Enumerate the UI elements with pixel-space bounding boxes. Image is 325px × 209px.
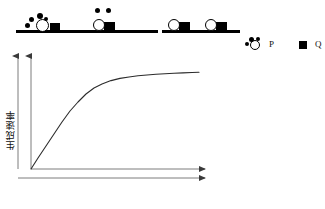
panel-2-bound-complex-releasing-product xyxy=(80,0,158,40)
panel-1-substrate-approaching xyxy=(16,0,88,40)
p-satellite-dot-icon xyxy=(29,17,34,22)
p-core-icon xyxy=(168,19,180,31)
q-square-icon xyxy=(179,22,190,33)
p-core-icon xyxy=(205,19,217,31)
chart-svg xyxy=(0,44,232,209)
p-core-icon xyxy=(36,19,49,32)
p-satellite-dot-icon xyxy=(37,13,43,19)
q-square-icon xyxy=(50,23,60,33)
p-core-icon xyxy=(93,19,105,31)
rate-chart: 生成速率 0 P Q xyxy=(0,44,232,209)
legend: P Q xyxy=(245,33,325,57)
legend-label-p: P xyxy=(269,37,274,51)
mechanism-panels xyxy=(0,0,240,40)
p-satellite-dot-icon xyxy=(44,17,48,21)
p-cluster-icon xyxy=(245,37,263,53)
rate-curve xyxy=(31,72,199,169)
q-square-icon xyxy=(104,22,115,33)
black-square-icon xyxy=(297,37,315,53)
legend-label-q: Q xyxy=(315,37,322,51)
q-square-icon xyxy=(216,22,227,33)
y-axis-label: 生成速率 xyxy=(6,110,20,150)
figure-root: P Q xyxy=(0,0,325,209)
p-satellite-dot-icon xyxy=(25,23,30,28)
released-product-dot-icon xyxy=(106,8,111,13)
released-product-dot-icon xyxy=(95,8,100,13)
panel-3-saturated-surface xyxy=(162,0,240,40)
catalyst-surface-bar xyxy=(80,30,158,33)
